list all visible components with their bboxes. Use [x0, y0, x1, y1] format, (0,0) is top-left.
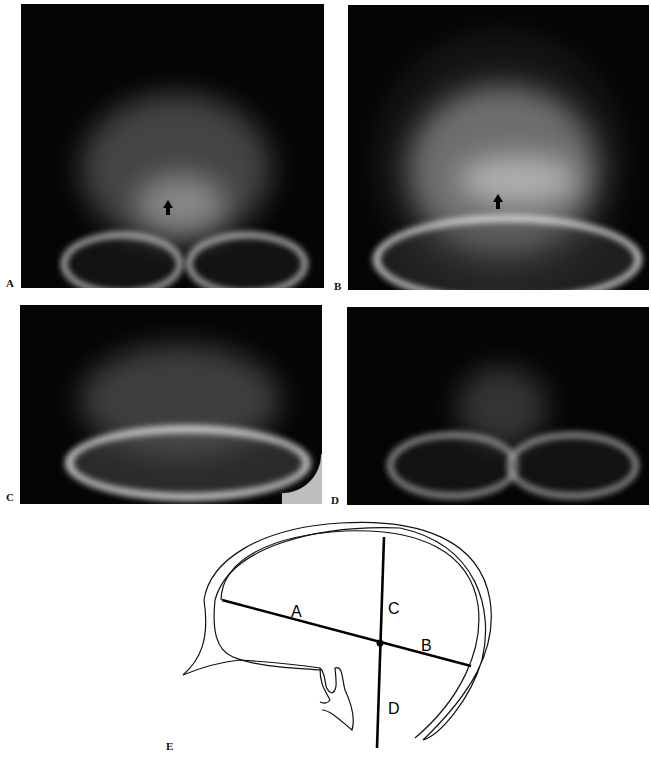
axis-label-b: B — [421, 637, 432, 654]
axis-intersection-dot — [377, 640, 384, 647]
axis-label-c: C — [388, 600, 400, 617]
skull-diagram-e: A C B D — [0, 0, 651, 758]
axis-label-d: D — [388, 700, 400, 717]
panel-label-e: E — [166, 740, 173, 752]
axis-label-a: A — [291, 603, 302, 620]
axis-line-ab — [222, 600, 471, 666]
